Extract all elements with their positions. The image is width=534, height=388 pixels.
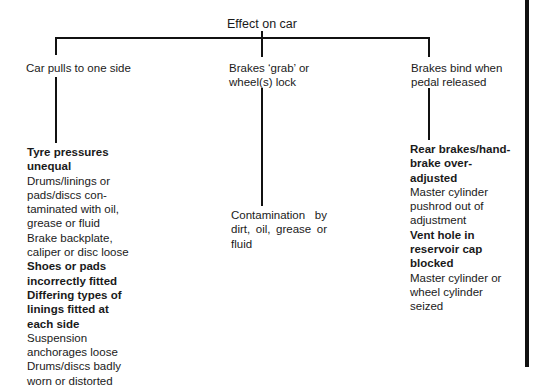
- cause-item: Contamination by dirt, oil, grease or fl…: [231, 208, 327, 251]
- cause-item: Master cylinder or wheel cylinder seized: [410, 271, 510, 314]
- cause-line: anchorages loose: [27, 345, 129, 359]
- cause-line: Rear brakes/hand-: [410, 142, 510, 156]
- cause-line: Tyre pressures: [27, 145, 129, 159]
- horizontal-branch-line: [55, 37, 430, 39]
- cause-line: wheel cylinder: [410, 285, 510, 299]
- cause-line: Brake backplate,: [27, 231, 129, 245]
- cause-line: Master cylinder or: [410, 271, 510, 285]
- cause-line: seized: [410, 299, 510, 313]
- title-stem-line: [261, 31, 263, 57]
- cause-line: linings fitted at: [27, 302, 129, 316]
- cause-line: unequal: [27, 159, 129, 173]
- cause-line: blocked: [410, 256, 510, 270]
- causes-list-bind: Rear brakes/hand- brake over- adjusted M…: [410, 142, 510, 314]
- cause-item: Brake backplate, caliper or disc loose: [27, 231, 129, 260]
- cause-line: Drums/discs badly: [27, 359, 129, 373]
- cause-line: caliper or disc loose: [27, 245, 129, 259]
- cause-line: each side: [27, 317, 129, 331]
- left-cause-connector-line: [55, 77, 57, 143]
- cause-line: worn or distorted: [27, 374, 129, 388]
- cause-item: Vent hole in reservoir cap blocked: [410, 228, 510, 271]
- cause-item: Drums/discs badly worn or distorted: [27, 359, 129, 388]
- cause-item: Tyre pressures unequal: [27, 145, 129, 174]
- causes-list-pulls: Tyre pressures unequal Drums/linings or …: [27, 145, 129, 388]
- right-branch-drop-line: [428, 37, 430, 57]
- branch-label-grab: Brakes ‘grab’ or wheel(s) lock: [229, 61, 309, 90]
- branch-label-line: Car pulls to one side: [26, 61, 131, 75]
- cause-line: brake over-: [410, 156, 510, 170]
- cause-line: Differing types of: [27, 288, 129, 302]
- causes-list-grab: Contamination by dirt, oil, grease or fl…: [231, 208, 327, 251]
- page-edge-bar: [525, 0, 529, 367]
- cause-line: Shoes or pads: [27, 259, 129, 273]
- diagram-title: Effect on car: [227, 17, 297, 31]
- cause-line: pads/discs con-: [27, 188, 129, 202]
- branch-label-line: Brakes ‘grab’ or: [229, 61, 309, 75]
- cause-line: Vent hole in: [410, 228, 510, 242]
- cause-line: grease or fluid: [27, 216, 129, 230]
- cause-line: adjustment: [410, 213, 510, 227]
- cause-line: incorrectly fitted: [27, 274, 129, 288]
- right-cause-connector-line: [428, 88, 430, 140]
- branch-label-line: pedal released: [411, 75, 502, 89]
- cause-item: Master cylinder pushrod out of adjustmen…: [410, 185, 510, 228]
- cause-line: Master cylinder: [410, 185, 510, 199]
- left-branch-drop-line: [55, 37, 57, 55]
- branch-label-line: wheel(s) lock: [229, 75, 309, 89]
- cause-line: Suspension: [27, 331, 129, 345]
- branch-label-line: Brakes bind when: [411, 61, 502, 75]
- cause-item: Drums/linings or pads/discs con- taminat…: [27, 174, 129, 231]
- branch-label-bind: Brakes bind when pedal released: [411, 61, 502, 90]
- cause-line: taminated with oil,: [27, 202, 129, 216]
- cause-item: Rear brakes/hand- brake over- adjusted: [410, 142, 510, 185]
- cause-line: adjusted: [410, 171, 510, 185]
- cause-line: reservoir cap: [410, 242, 510, 256]
- cause-line: Drums/linings or: [27, 174, 129, 188]
- cause-item: Shoes or pads incorrectly fitted: [27, 259, 129, 288]
- branch-label-pulls: Car pulls to one side: [26, 61, 131, 75]
- cause-item: Suspension anchorages loose: [27, 331, 129, 360]
- cause-line: pushrod out of: [410, 199, 510, 213]
- cause-item: Differing types of linings fitted at eac…: [27, 288, 129, 331]
- middle-cause-connector-line: [261, 88, 263, 206]
